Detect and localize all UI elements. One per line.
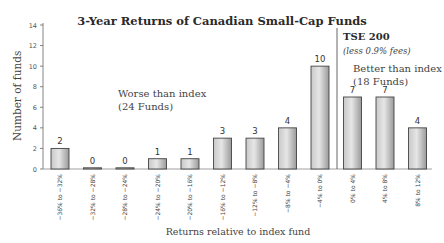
bar-value-label: 1 [187, 147, 192, 157]
bar [214, 138, 232, 169]
x-tick-label: −24% to −20% [154, 174, 161, 221]
bar [51, 148, 69, 169]
bar-value-label: 4 [415, 116, 420, 126]
bar-value-label: 3 [220, 126, 225, 136]
bar [376, 97, 394, 169]
y-tick-label: 0 [33, 166, 37, 174]
worse-than-index-annotation: Worse than index (24 Funds) [118, 87, 206, 113]
bar-value-label: 10 [315, 54, 326, 64]
worse-line-1: Worse than index [118, 87, 206, 100]
x-tick-label: 0% to 4% [349, 174, 356, 203]
worse-line-2: (24 Funds) [118, 100, 206, 113]
y-tick-label: 10 [29, 63, 37, 71]
x-tick-label: 8% to 12% [414, 174, 421, 207]
bar [84, 168, 102, 169]
index-label: TSE 200 [343, 31, 390, 42]
bar-value-label: 3 [252, 126, 257, 136]
bar [311, 66, 329, 169]
x-tick-label: −8% to −4% [284, 174, 291, 213]
y-tick-label: 8 [33, 83, 37, 91]
x-tick-label: −12% to −8% [251, 174, 258, 217]
y-tick-label: 4 [33, 124, 37, 132]
bar [409, 128, 427, 169]
bar [279, 128, 297, 169]
y-tick-label: 2 [33, 145, 37, 153]
x-tick-label: −16% to −12% [219, 174, 226, 221]
y-tick-label: 12 [29, 42, 37, 50]
bar [246, 138, 264, 169]
index-sublabel: (less 0.9% fees) [343, 46, 411, 56]
bar-value-label: 2 [57, 136, 62, 146]
x-tick-labels: −36% to −32%−32% to −28%−28% to −24%−24%… [56, 174, 421, 221]
x-tick-label: −36% to −32% [56, 174, 63, 221]
bar-value-label: 0 [122, 156, 127, 166]
bar-value-label: 1 [155, 147, 160, 157]
x-tick-label: −28% to −24% [121, 174, 128, 221]
x-tick-label: −32% to −28% [89, 174, 96, 221]
y-tick-label: 14 [29, 22, 37, 30]
bar-value-label: 4 [285, 116, 290, 126]
x-tick-label: 4% to 8% [381, 174, 388, 203]
x-tick-label: −20% to −16% [186, 174, 193, 221]
bar [181, 159, 199, 169]
better-than-index-annotation: Better than index (18 Funds) [353, 62, 442, 88]
better-line-2: (18 Funds) [353, 75, 442, 88]
bar [116, 168, 134, 169]
bar-value-label: 0 [90, 156, 95, 166]
x-tick-label: −4% to 0% [316, 174, 323, 208]
better-line-1: Better than index [353, 62, 442, 75]
bar [149, 159, 167, 169]
y-tick-label: 6 [33, 104, 37, 112]
bar [344, 97, 362, 169]
